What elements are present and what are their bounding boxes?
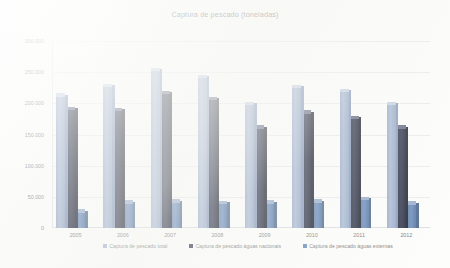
bar-side — [133, 202, 136, 228]
bar-top — [292, 85, 301, 89]
bar-top — [340, 89, 349, 93]
bar-group — [151, 41, 192, 228]
bar-front — [292, 88, 301, 228]
bar-side — [207, 76, 210, 228]
bar-2009-series3 — [265, 200, 274, 228]
bar-group — [292, 41, 333, 228]
legend-item[interactable]: Captura de pescado águas nacionais — [189, 243, 281, 249]
bar-top — [76, 209, 85, 213]
x-tick-label: 2012 — [383, 232, 430, 238]
bar-top — [350, 116, 359, 120]
bar-side — [406, 127, 409, 228]
bar-side — [227, 202, 230, 228]
bar-side — [322, 201, 325, 228]
bar-top — [265, 200, 274, 204]
bar-top — [407, 201, 416, 205]
bar-front — [387, 105, 396, 228]
x-tick-label: 2006 — [99, 232, 146, 238]
bar-group — [56, 41, 97, 228]
bar-group — [245, 41, 286, 228]
y-tick-label: 50.000 — [0, 194, 44, 200]
bar-side — [75, 108, 78, 228]
bar-2010-series1 — [292, 85, 301, 228]
bar-top — [66, 107, 75, 111]
bar-2005-series3 — [76, 209, 85, 228]
bar-front — [245, 105, 254, 228]
bar-top — [124, 200, 133, 204]
bar-2011-series3 — [360, 197, 369, 228]
x-tick-label: 2009 — [241, 232, 288, 238]
chart-legend: Captura de pescado totalCaptura de pesca… — [52, 243, 444, 249]
bar-front — [397, 128, 406, 228]
legend-label: Captura de pescado águas externas — [309, 243, 393, 249]
bar-top — [198, 75, 207, 79]
bar-top — [387, 102, 396, 106]
bar-front — [218, 204, 227, 228]
x-tick-label: 2007 — [147, 232, 194, 238]
bar-2007-series1 — [151, 68, 160, 228]
bar-top — [56, 93, 65, 97]
bar-side — [274, 202, 277, 228]
square-marker-icon — [189, 244, 193, 248]
bar-2011-series2 — [350, 116, 359, 228]
bar-2005-series2 — [66, 107, 75, 228]
y-tick-label: 0 — [0, 225, 44, 231]
bar-front — [151, 71, 160, 228]
legend-item[interactable]: Captura de pescado águas externas — [303, 243, 393, 249]
bar-front — [76, 212, 85, 228]
bar-side — [349, 90, 352, 228]
bar-2006-series3 — [124, 200, 133, 228]
chart-title: Captura de pescado (toneladas) — [0, 10, 450, 19]
bar-2010-series3 — [313, 199, 322, 228]
bar-side — [301, 86, 304, 228]
x-tick-label: 2005 — [52, 232, 99, 238]
bar-top — [313, 199, 322, 203]
legend-item[interactable]: Captura de pescado total — [103, 243, 167, 249]
bar-top — [245, 102, 254, 106]
legend-label: Captura de pescado total — [109, 243, 167, 249]
bar-top — [103, 84, 112, 88]
bar-side — [396, 103, 399, 228]
legend-label: Captura de pescado águas nacionais — [195, 243, 281, 249]
fish-catch-bar-chart: Captura de pescado (toneladas) 050.00010… — [0, 0, 450, 268]
y-tick-label: 100.000 — [0, 163, 44, 169]
bar-side — [180, 201, 183, 228]
bar-2009-series2 — [255, 125, 264, 228]
plot-area — [52, 41, 430, 228]
bar-2008-series2 — [208, 97, 217, 228]
y-tick-label: 300.000 — [0, 38, 44, 44]
y-tick-label: 200.000 — [0, 100, 44, 106]
bar-2009-series1 — [245, 102, 254, 228]
bar-front — [113, 111, 122, 228]
bar-side — [311, 112, 314, 228]
bar-front — [360, 200, 369, 228]
x-tick-label: 2011 — [336, 232, 383, 238]
bar-front — [103, 87, 112, 228]
bar-top — [360, 197, 369, 201]
bar-group — [103, 41, 144, 228]
bar-side — [112, 85, 115, 228]
bar-side — [65, 95, 68, 228]
bar-2012-series2 — [397, 125, 406, 228]
bar-side — [122, 109, 125, 228]
x-tick-label: 2008 — [194, 232, 241, 238]
bar-front — [350, 119, 359, 228]
bar-front — [198, 78, 207, 228]
y-tick-label: 250.000 — [0, 69, 44, 75]
bar-front — [407, 204, 416, 228]
x-tick-label: 2010 — [288, 232, 335, 238]
bar-2006-series1 — [103, 84, 112, 228]
bar-side — [369, 198, 372, 228]
bar-group — [340, 41, 381, 228]
bar-2007-series3 — [171, 199, 180, 228]
bar-2007-series2 — [161, 91, 170, 228]
bar-front — [66, 110, 75, 228]
bar-side — [217, 98, 220, 228]
bar-front — [124, 203, 133, 228]
bar-2012-series3 — [407, 201, 416, 228]
bar-front — [313, 202, 322, 228]
y-axis-labels: 050.000100.000150.000200.000250.000300.0… — [0, 41, 46, 228]
bar-front — [265, 203, 274, 228]
bar-2008-series1 — [198, 75, 207, 228]
bar-front — [171, 202, 180, 228]
